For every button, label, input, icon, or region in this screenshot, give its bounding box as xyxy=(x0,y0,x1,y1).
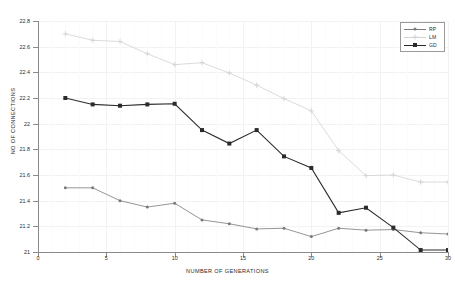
y-axis-tick-label: 22.2 xyxy=(0,95,30,101)
y-axis-tick xyxy=(33,21,38,22)
y-axis-tick-label: 21.6 xyxy=(0,172,30,178)
series-line xyxy=(65,98,448,250)
legend-label: LM xyxy=(429,33,436,41)
chart-figure: NUMBER OF GENERATIONS NO OF CONNECTIONS … xyxy=(0,0,455,289)
legend-label: RP xyxy=(429,25,436,33)
data-point-marker xyxy=(91,186,94,189)
x-axis-tick-label: 15 xyxy=(231,255,255,261)
data-point-marker xyxy=(63,96,67,100)
data-point-marker xyxy=(337,227,340,230)
legend-item-lm[interactable]: LM xyxy=(403,33,442,41)
y-axis-tick-label: 22.4 xyxy=(0,69,30,75)
y-axis-tick xyxy=(33,226,38,227)
data-point-marker xyxy=(281,96,286,101)
legend-swatch-gd-icon xyxy=(403,41,427,49)
data-point-marker xyxy=(200,128,204,132)
data-point-marker xyxy=(254,83,259,88)
series-line xyxy=(65,34,448,182)
x-axis-tick-label: 5 xyxy=(94,255,118,261)
y-axis-tick xyxy=(33,201,38,202)
data-point-marker xyxy=(391,172,396,177)
data-point-marker xyxy=(119,199,122,202)
data-point-marker xyxy=(447,233,449,236)
data-point-marker xyxy=(445,179,448,184)
data-point-marker xyxy=(364,206,368,210)
data-point-marker xyxy=(145,51,150,56)
data-point-marker xyxy=(365,229,368,232)
data-point-marker xyxy=(173,202,176,205)
data-point-marker xyxy=(391,226,395,230)
data-point-marker xyxy=(228,222,231,225)
chart-legend[interactable]: RPLMGD xyxy=(400,22,445,52)
data-point-marker xyxy=(90,38,95,43)
data-point-marker xyxy=(64,186,67,189)
y-axis-tick xyxy=(33,98,38,99)
data-point-marker xyxy=(282,154,286,158)
data-point-marker xyxy=(310,235,313,238)
data-point-marker xyxy=(227,142,231,146)
data-point-marker xyxy=(117,39,122,44)
data-point-marker xyxy=(255,128,259,132)
y-axis-tick-label: 21.4 xyxy=(0,198,30,204)
data-point-marker xyxy=(201,218,204,221)
data-point-marker xyxy=(309,166,313,170)
data-point-marker xyxy=(91,102,95,106)
y-axis-tick-label: 21.8 xyxy=(0,146,30,152)
legend-swatch-lm-icon xyxy=(403,33,427,41)
x-axis-tick-label: 25 xyxy=(368,255,392,261)
series-rp xyxy=(64,186,448,238)
data-point-marker xyxy=(309,108,314,113)
data-point-marker xyxy=(118,104,122,108)
legend-swatch-rp-icon xyxy=(403,25,427,33)
x-axis-tick-label: 30 xyxy=(436,255,455,261)
y-axis-tick xyxy=(33,175,38,176)
legend-item-rp[interactable]: RP xyxy=(403,25,442,33)
data-point-marker xyxy=(419,231,422,234)
data-point-marker xyxy=(172,62,177,67)
legend-item-gd[interactable]: GD xyxy=(403,41,442,49)
data-point-marker xyxy=(199,60,204,65)
data-point-marker xyxy=(419,248,423,252)
y-axis-tick xyxy=(33,47,38,48)
data-point-marker xyxy=(337,211,341,215)
x-axis-tick-label: 0 xyxy=(26,255,50,261)
y-axis-tick xyxy=(33,72,38,73)
data-point-marker xyxy=(173,102,177,106)
y-axis-tick-label: 22.8 xyxy=(0,18,30,24)
data-point-marker xyxy=(418,179,423,184)
y-axis-tick-label: 22.6 xyxy=(0,44,30,50)
x-axis-tick-label: 20 xyxy=(299,255,323,261)
series-layer xyxy=(38,21,448,252)
data-point-marker xyxy=(146,206,149,209)
data-point-marker xyxy=(145,102,149,106)
data-point-marker xyxy=(283,227,286,230)
data-point-marker xyxy=(63,31,68,36)
grid-line-vertical xyxy=(448,21,449,252)
legend-label: GD xyxy=(429,41,437,49)
data-point-marker xyxy=(227,70,232,75)
y-axis-tick xyxy=(33,149,38,150)
y-axis-tick-label: 21.2 xyxy=(0,223,30,229)
x-axis-title: NUMBER OF GENERATIONS xyxy=(0,268,455,274)
series-lm xyxy=(63,31,448,184)
x-axis-tick-label: 10 xyxy=(163,255,187,261)
data-point-marker xyxy=(255,227,258,230)
y-axis-tick-label: 22 xyxy=(0,121,30,127)
y-axis-tick xyxy=(33,124,38,125)
